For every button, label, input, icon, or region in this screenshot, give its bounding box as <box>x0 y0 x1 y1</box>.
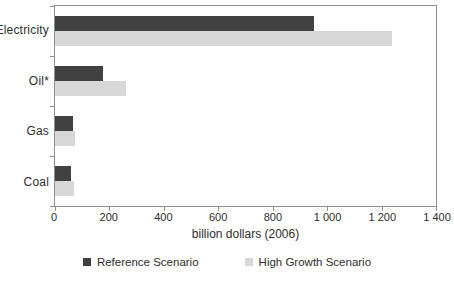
bar-coal-high-growth-scenario <box>55 181 74 196</box>
bar-electricity-reference-scenario <box>55 16 314 31</box>
category-label-coal: Coal <box>0 157 49 208</box>
x-axis-tick-label: 1 400 <box>423 211 451 223</box>
y-axis-tick <box>50 156 55 157</box>
x-axis-tick-label: 1 200 <box>369 211 397 223</box>
x-axis-tick-label: 800 <box>264 211 282 223</box>
x-axis-tick-label: 600 <box>209 211 227 223</box>
reference-scenario-swatch-icon <box>83 258 91 266</box>
energy-investment-bar-chart: ElectricityOil*GasCoal 02004006008001 00… <box>0 0 454 281</box>
category-band-gas <box>55 106 436 156</box>
legend-item-reference: Reference Scenario <box>83 256 199 268</box>
y-axis-tick <box>50 56 55 57</box>
y-axis-category-labels: ElectricityOil*GasCoal <box>0 5 49 207</box>
category-label-electricity: Electricity <box>0 5 49 56</box>
category-band-oil <box>55 56 436 106</box>
legend-label-reference: Reference Scenario <box>97 256 199 268</box>
y-axis-tick <box>50 106 55 107</box>
x-axis-tick-label: 200 <box>100 211 118 223</box>
x-axis-title: billion dollars (2006) <box>54 227 437 241</box>
category-band-coal <box>55 156 436 206</box>
category-label-gas: Gas <box>0 106 49 157</box>
plot-area <box>54 5 437 207</box>
legend: Reference Scenario High Growth Scenario <box>0 256 454 268</box>
x-axis-tick-label: 1 000 <box>314 211 342 223</box>
y-axis-tick <box>50 6 55 7</box>
x-axis-tick-labels: 02004006008001 0001 2001 400 <box>54 211 437 224</box>
x-axis-tick-label: 400 <box>154 211 172 223</box>
bar-gas-reference-scenario <box>55 116 73 131</box>
bar-gas-high-growth-scenario <box>55 131 75 146</box>
bar-oil-high-growth-scenario <box>55 81 126 96</box>
x-axis-tick-label: 0 <box>51 211 57 223</box>
bar-oil-reference-scenario <box>55 66 103 81</box>
category-band-electricity <box>55 6 436 56</box>
bar-coal-reference-scenario <box>55 166 71 181</box>
bar-electricity-high-growth-scenario <box>55 31 392 46</box>
high-growth-scenario-swatch-icon <box>245 258 253 266</box>
legend-label-high-growth: High Growth Scenario <box>259 256 372 268</box>
legend-item-high-growth: High Growth Scenario <box>245 256 372 268</box>
category-label-oil: Oil* <box>0 56 49 107</box>
bar-groups <box>55 6 436 206</box>
